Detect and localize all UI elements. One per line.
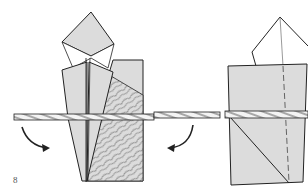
left-front-flap (62, 62, 87, 181)
fold-arrow-right-icon (167, 125, 193, 152)
left-step-model (62, 12, 143, 181)
fold-arrow-left-icon (22, 127, 50, 152)
right-step-model (225, 17, 308, 185)
step-number: 8 (13, 175, 18, 185)
skewer-right-end (154, 112, 220, 118)
skewer-left (14, 114, 154, 120)
origami-diagram (0, 0, 308, 194)
wrapped-body (228, 64, 307, 185)
skewer-right (225, 111, 308, 118)
top-diamond-outline (252, 17, 308, 66)
